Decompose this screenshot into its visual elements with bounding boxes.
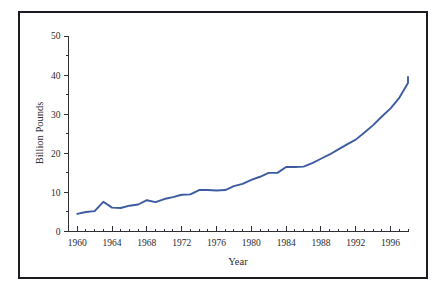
y-tick-label: 50	[51, 31, 61, 41]
data-series-line	[77, 77, 408, 214]
x-tick-label: 1964	[103, 238, 122, 248]
x-tick-label: 1960	[68, 238, 87, 248]
x-tick-label: 1980	[242, 238, 261, 248]
y-axis-tick-labels: 01020304050	[51, 31, 61, 237]
line-chart: 01020304050 1960196419681972197619801984…	[0, 0, 445, 297]
y-tick-label: 20	[51, 149, 61, 159]
y-axis-title: Billion Pounds	[34, 102, 45, 165]
x-tick-label: 1968	[137, 238, 156, 248]
x-tick-label: 1996	[381, 238, 400, 248]
x-tick-label: 1984	[277, 238, 296, 248]
y-tick-label: 0	[56, 227, 61, 237]
chart-figure: 01020304050 1960196419681972197619801984…	[0, 0, 445, 297]
x-axis-title: Year	[228, 256, 248, 267]
x-tick-label: 1992	[346, 238, 365, 248]
x-axis-tick-labels: 1960196419681972197619801984198819921996	[68, 238, 401, 248]
y-tick-label: 40	[51, 71, 61, 81]
y-tick-label: 30	[51, 110, 61, 120]
x-tick-label: 1972	[172, 238, 191, 248]
x-tick-label: 1988	[311, 238, 330, 248]
x-tick-label: 1976	[207, 238, 226, 248]
y-tick-label: 10	[51, 188, 61, 198]
